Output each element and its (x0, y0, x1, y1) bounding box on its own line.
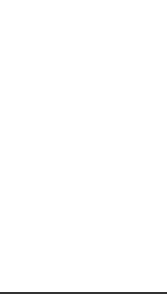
bottom-rule (0, 292, 167, 294)
quilt-diagram (0, 0, 167, 296)
